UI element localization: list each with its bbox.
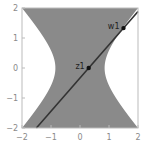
point-label-w1: w1 — [108, 22, 120, 31]
x-tick-label: 1 — [106, 133, 111, 142]
x-tick-label: −1 — [45, 133, 57, 142]
point-label-z1: z1 — [75, 62, 84, 71]
y-tick-label: −2 — [6, 124, 18, 133]
x-tick-label: 2 — [135, 133, 140, 142]
region-plot: −2−1012 −2−1012 z1w1 — [0, 0, 146, 150]
x-tick-label: 0 — [77, 133, 82, 142]
point-z1 — [87, 66, 91, 70]
y-tick-label: −1 — [6, 94, 18, 103]
y-tick-label: 2 — [13, 4, 18, 13]
y-tick-label: 0 — [13, 64, 18, 73]
x-tick-label: −2 — [16, 133, 28, 142]
y-tick-label: 1 — [13, 34, 18, 43]
point-w1 — [121, 26, 125, 30]
